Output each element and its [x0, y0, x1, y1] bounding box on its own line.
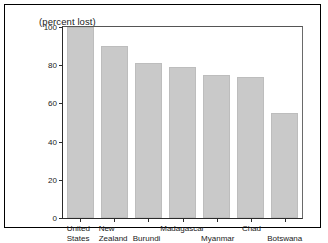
y-axis-tick-mark	[59, 180, 63, 181]
x-axis-tick-mark	[148, 218, 149, 222]
y-axis-tick-mark	[59, 218, 63, 219]
x-axis-tick-label: Madagascar	[160, 224, 204, 234]
x-axis-tick-label: UnitedStates	[67, 224, 90, 243]
x-axis-tick-mark	[114, 218, 115, 222]
x-axis-tick-label-line: States	[67, 234, 90, 243]
x-axis-tick-mark	[285, 218, 286, 222]
x-axis-tick-label: Myanmar	[201, 234, 234, 243]
bar	[271, 113, 298, 218]
x-axis-tick-label: Chad	[242, 224, 261, 234]
figure-frame: (percent lost) 020406080100 UnitedStates…	[4, 4, 321, 228]
x-axis-tick-label-line: Burundi	[133, 234, 161, 243]
bar	[237, 77, 264, 218]
x-axis-tick-mark	[251, 218, 252, 222]
x-axis-tick-label: Botswana	[267, 234, 302, 243]
x-axis-tick-mark	[80, 218, 81, 222]
y-axis-tick-mark	[59, 103, 63, 104]
y-axis-tick-mark	[59, 27, 63, 28]
x-axis-tick-label: Burundi	[133, 234, 161, 243]
x-axis-tick-label-line: Myanmar	[201, 234, 234, 243]
x-axis-tick-label-line: Zealand	[99, 234, 128, 243]
x-axis-tick-mark	[217, 218, 218, 222]
y-axis-tick-mark	[59, 65, 63, 66]
x-axis-tick-label-line: New	[99, 224, 128, 234]
bar	[67, 27, 94, 218]
bar	[169, 67, 196, 218]
bar	[101, 46, 128, 218]
plot-area: 020406080100 UnitedStatesNewZealandBurun…	[62, 26, 303, 219]
x-axis-tick-label-line: Madagascar	[160, 224, 204, 234]
x-axis-tick-label-line: Botswana	[267, 234, 302, 243]
x-axis-tick-label-line: Chad	[242, 224, 261, 234]
x-axis-tick-label-line: United	[67, 224, 90, 234]
x-axis-tick-label: NewZealand	[99, 224, 128, 243]
bar	[203, 75, 230, 218]
bar	[135, 63, 162, 218]
x-axis-tick-mark	[183, 218, 184, 222]
y-axis-tick-mark	[59, 142, 63, 143]
